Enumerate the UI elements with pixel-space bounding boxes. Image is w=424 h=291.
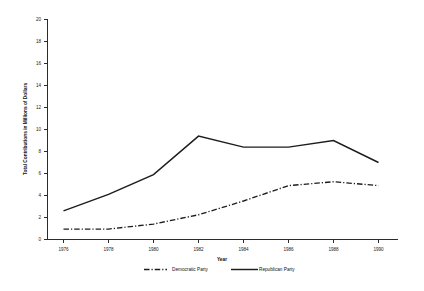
y-tick-label: 8 bbox=[38, 149, 41, 154]
y-tick-label: 16 bbox=[36, 61, 42, 66]
y-axis-ticks bbox=[44, 20, 48, 240]
chart-canvas: 0 2 4 6 8 10 12 14 16 18 20 1976 1978 bbox=[0, 0, 424, 291]
x-tick-label: 1990 bbox=[373, 247, 384, 252]
x-tick-label: 1980 bbox=[148, 247, 159, 252]
y-tick-label: 20 bbox=[36, 17, 42, 22]
x-tick-label: 1978 bbox=[103, 247, 114, 252]
x-axis-title: Year bbox=[217, 257, 227, 262]
y-axis-tick-labels: 0 2 4 6 8 10 12 14 16 18 20 bbox=[36, 17, 42, 242]
legend-label-republican: Republican Party bbox=[259, 267, 295, 272]
x-tick-label: 1982 bbox=[193, 247, 204, 252]
y-tick-label: 6 bbox=[38, 171, 41, 176]
x-axis-ticks bbox=[64, 240, 379, 244]
y-axis-title: Total Contributions in Millions of Dolla… bbox=[23, 83, 28, 175]
chart-legend: Democratic Party Republican Party bbox=[144, 267, 295, 272]
y-tick-label: 18 bbox=[36, 39, 42, 44]
y-tick-label: 0 bbox=[38, 237, 41, 242]
series-line-democratic bbox=[64, 182, 379, 229]
series-line-republican bbox=[64, 136, 379, 211]
y-tick-label: 10 bbox=[36, 127, 42, 132]
y-tick-label: 14 bbox=[36, 83, 42, 88]
y-tick-label: 2 bbox=[38, 215, 41, 220]
y-tick-label: 4 bbox=[38, 193, 41, 198]
x-axis-tick-labels: 1976 1978 1980 1982 1984 1986 1988 1990 bbox=[58, 247, 384, 252]
y-tick-label: 12 bbox=[36, 105, 42, 110]
line-chart: 0 2 4 6 8 10 12 14 16 18 20 1976 1978 bbox=[0, 0, 424, 291]
x-tick-label: 1986 bbox=[283, 247, 294, 252]
legend-label-democratic: Democratic Party bbox=[172, 267, 209, 272]
x-tick-label: 1976 bbox=[58, 247, 69, 252]
x-tick-label: 1984 bbox=[238, 247, 249, 252]
x-tick-label: 1988 bbox=[328, 247, 339, 252]
